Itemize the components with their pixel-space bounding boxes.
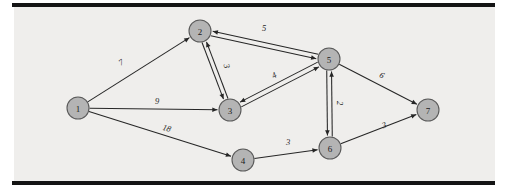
node-1[interactable]: 1 [67, 97, 89, 119]
node-label-7: 7 [426, 106, 431, 116]
edge-weight-4-6: 3 [285, 137, 290, 147]
frame-bottom-bar [12, 181, 495, 185]
node-label-2: 2 [198, 27, 203, 37]
edge-weight-5-2: 5 [262, 23, 266, 33]
node-label-3: 3 [228, 106, 233, 116]
node-7[interactable]: 7 [417, 99, 439, 121]
node-2[interactable]: 2 [189, 20, 211, 42]
frame-top-bar [12, 3, 495, 7]
node-label-4: 4 [241, 156, 246, 166]
node-label-1: 1 [76, 104, 81, 114]
edge-6-to-5 [332, 71, 333, 136]
node-4[interactable]: 4 [232, 149, 254, 171]
figure-container: 79183542363 1234567 [0, 0, 509, 196]
diagram-background [14, 7, 495, 181]
node-3[interactable]: 3 [219, 99, 241, 121]
node-5[interactable]: 5 [318, 48, 340, 70]
graph-diagram: 79183542363 1234567 [0, 0, 509, 196]
edge-5-to-6 [327, 71, 328, 136]
node-6[interactable]: 6 [319, 137, 341, 159]
node-label-5: 5 [327, 55, 332, 65]
node-label-6: 6 [328, 144, 333, 154]
